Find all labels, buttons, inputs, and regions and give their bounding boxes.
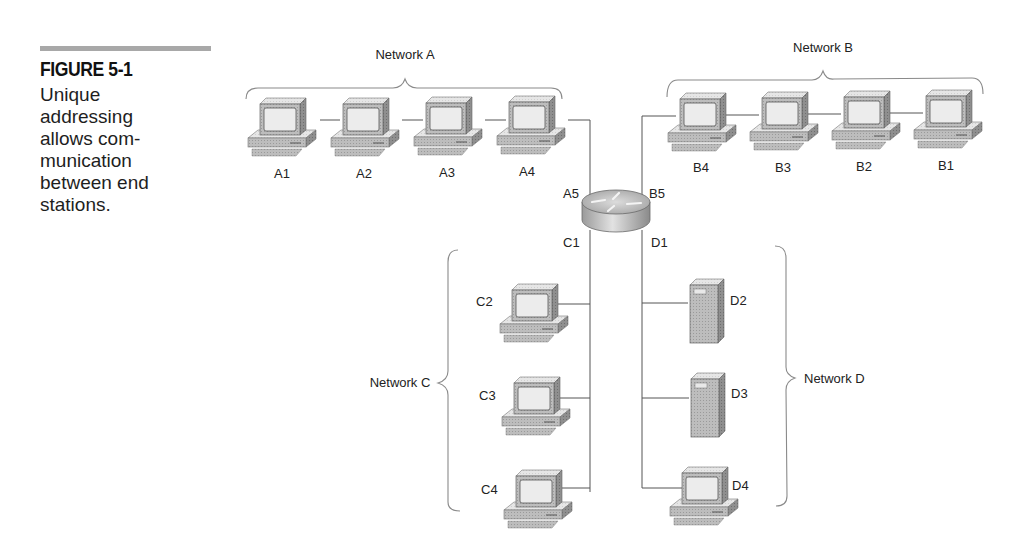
network-diagram: Network A A1 A2 A3 A4 Network B B4 B3 B2… bbox=[0, 0, 1030, 552]
workstation-icon bbox=[914, 90, 982, 148]
interface-label-c1: C1 bbox=[563, 235, 580, 250]
router: A5 B5 C1 D1 bbox=[563, 186, 668, 492]
workstation-icon bbox=[832, 91, 900, 149]
host-label-b1: B1 bbox=[938, 158, 954, 173]
interface-label-b5: B5 bbox=[649, 186, 665, 201]
network-c-brace bbox=[438, 250, 460, 511]
workstation-icon bbox=[668, 93, 736, 151]
network-b-label: Network B bbox=[793, 40, 853, 55]
workstation-icon bbox=[500, 284, 568, 342]
workstation-icon bbox=[248, 98, 316, 156]
workstation-icon bbox=[331, 98, 399, 156]
server-icon bbox=[691, 373, 725, 437]
interface-label-a5: A5 bbox=[563, 186, 579, 201]
host-label-b3: B3 bbox=[775, 160, 791, 175]
host-label-b4: B4 bbox=[693, 160, 709, 175]
workstation-icon bbox=[750, 92, 818, 150]
interface-label-d1: D1 bbox=[651, 235, 668, 250]
network-b: Network B B4 B3 B2 B1 bbox=[642, 40, 983, 198]
host-label-b2: B2 bbox=[856, 159, 872, 174]
network-a: Network A A1 A2 A3 A4 bbox=[246, 47, 590, 198]
workstation-icon bbox=[414, 97, 482, 155]
network-d-label: Network D bbox=[804, 371, 865, 386]
host-label-a2: A2 bbox=[356, 166, 372, 181]
network-d: D2 D3 D4 Network D bbox=[642, 246, 865, 525]
workstation-icon bbox=[504, 470, 572, 528]
host-label-a1: A1 bbox=[274, 166, 290, 181]
host-label-c3: C3 bbox=[479, 388, 496, 403]
host-label-d2: D2 bbox=[730, 293, 747, 308]
workstation-icon bbox=[502, 377, 570, 435]
network-d-brace bbox=[775, 246, 795, 506]
host-label-c2: C2 bbox=[476, 294, 493, 309]
host-label-c4: C4 bbox=[481, 482, 498, 497]
workstation-icon bbox=[670, 467, 738, 525]
host-label-d4: D4 bbox=[732, 478, 749, 493]
network-c-label: Network C bbox=[370, 375, 431, 390]
network-a-label: Network A bbox=[375, 47, 435, 62]
host-label-d3: D3 bbox=[731, 386, 748, 401]
workstation-icon bbox=[497, 96, 565, 154]
host-label-a3: A3 bbox=[439, 165, 455, 180]
host-label-a4: A4 bbox=[519, 164, 535, 179]
router-icon bbox=[582, 190, 650, 232]
server-icon bbox=[690, 279, 724, 343]
network-c: Network C C2 C3 C4 bbox=[370, 250, 590, 528]
